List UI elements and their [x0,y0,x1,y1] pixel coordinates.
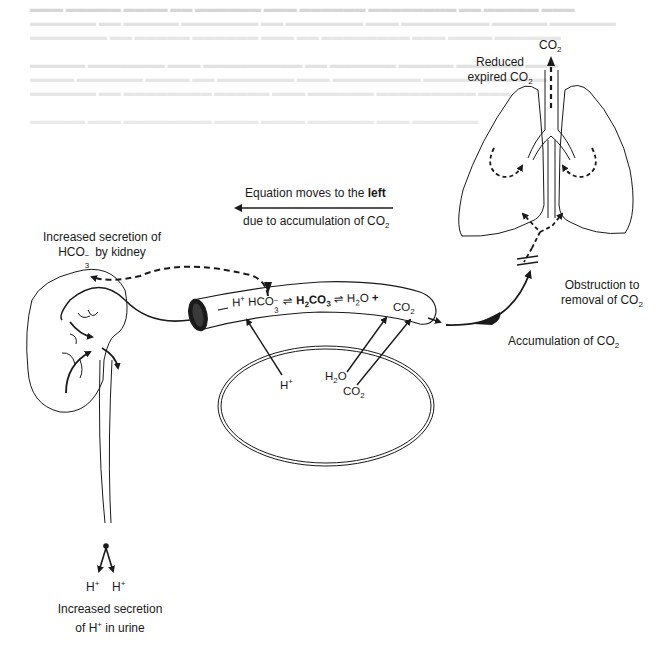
label-line: removal of CO [561,293,638,307]
urine-split-arrows [99,544,113,571]
obstruction-symbol [517,256,538,265]
subscript: 2 [528,77,532,86]
respiratory-acidosis-diagram: ▬▬▬ ▬▬▬▬▬ ▬▬▬▬ ▬▬ ▬▬▬▬▬▬ ▬▬▬ ▬▬▬▬▬▬ ▬▬▬▬… [0,0,658,655]
obstruction-label: Obstruction to removal of CO2 [552,278,652,312]
label-text: by kidney [92,245,146,259]
cell [218,346,434,466]
superscript: + [240,294,245,303]
subscript: 2 [557,45,561,54]
subscript: 3 [85,258,89,273]
equation-direction-line1: Equation moves to the left [245,186,386,201]
subscript: 3 [274,306,279,315]
superscript: − [274,296,279,305]
label-line: Reduced [450,55,550,70]
superscript: + [288,377,293,386]
cell-h2o-label: H2O [325,370,347,385]
urine-h-right: H+ [112,576,125,595]
subscript: 2 [385,221,389,230]
reduced-expired-co2-label: Reduced expired CO2 [450,55,550,89]
eq-plus: + [372,291,379,303]
label-text: H [86,580,95,594]
diagram-artwork [0,0,658,655]
label-text: CO [343,385,360,397]
equation-direction-line2: due to accumulation of CO2 [243,214,390,233]
subscript: 2 [638,300,642,309]
label-line: Increased secretion [40,602,180,617]
cell-co2-label: CO2 [343,385,365,400]
superscript: + [95,579,100,588]
label-line: expired CO [467,70,528,84]
subscript: 2 [360,391,364,400]
label-bold: left [368,186,386,200]
label-text: due to accumulation of CO [243,214,385,228]
kidney-hco3-label: Increased secretion of HCO−3 by kidney [22,230,182,260]
label-line: Obstruction to [552,278,652,293]
eq-h2o: O [360,292,369,304]
eq-hco3: HCO [248,295,274,308]
urine-h-left: H+ [86,576,99,595]
label-text: H [112,580,121,594]
subscript: 2 [615,341,619,350]
label-text: CO [539,38,557,52]
subscript: 3 [326,299,331,308]
label-text: Accumulation of CO [508,334,615,348]
superscript: + [121,579,126,588]
vessel-co2: CO2 [393,301,415,316]
label-line: Increased secretion of [22,230,182,245]
label-text: HCO [58,245,85,259]
equilibrium-arrow: ⇌ [283,294,293,306]
eq-h2co3: CO [309,293,327,306]
subscript: 2 [410,307,414,316]
label-text: in urine [102,621,145,635]
accumulation-label: Accumulation of CO2 [508,334,619,353]
kidney-illustration [27,269,127,523]
accumulation-curve [446,272,530,325]
label-text: of H [75,621,97,635]
urine-secretion-label: Increased secretion of H+ in urine [40,602,180,636]
lungs-illustration [459,64,633,262]
eq-co2: CO [393,301,410,313]
cell-h-label: H+ [280,377,293,391]
equilibrium-arrow: ⇌ [334,292,344,304]
label-text: O [338,370,347,382]
label-text: Equation moves to the [245,186,368,200]
kidney-flow-arrows [66,322,118,393]
